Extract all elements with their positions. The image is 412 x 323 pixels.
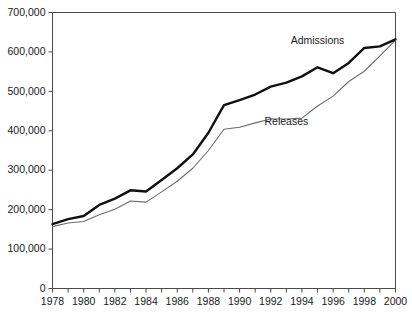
line-chart: 0100,000200,000300,000400,000500,000600,… (0, 0, 412, 323)
x-tick-label: 1996 (321, 295, 345, 307)
x-tick-label: 1986 (166, 295, 190, 307)
series-label-admissions: Admissions (291, 34, 345, 46)
axis-frame (53, 13, 396, 289)
series-line-releases (53, 40, 396, 227)
y-tick-label: 700,000 (8, 6, 46, 18)
x-tick-label: 2000 (384, 295, 408, 307)
series-annotations: AdmissionsReleases (264, 34, 344, 127)
y-tick-label: 100,000 (8, 242, 46, 254)
x-tick-label: 1990 (228, 295, 252, 307)
y-tick-label: 500,000 (8, 85, 46, 97)
series-label-releases: Releases (264, 115, 308, 127)
y-tick-label: 400,000 (8, 124, 46, 136)
x-tick-label: 1978 (41, 295, 65, 307)
y-axis-labels: 0100,000200,000300,000400,000500,000600,… (8, 6, 46, 294)
y-axis-ticks (49, 13, 53, 289)
x-tick-label: 1982 (103, 295, 127, 307)
x-tick-label: 1998 (353, 295, 377, 307)
x-tick-label: 1988 (197, 295, 221, 307)
x-axis-labels: 1978198019821984198619881990199219941996… (41, 295, 408, 307)
x-tick-label: 1992 (259, 295, 283, 307)
x-axis-ticks (53, 289, 396, 293)
x-tick-label: 1994 (290, 295, 314, 307)
x-tick-label: 1980 (72, 295, 96, 307)
y-tick-label: 0 (40, 282, 46, 294)
chart-container: 0100,000200,000300,000400,000500,000600,… (0, 0, 412, 323)
series-line-admissions (53, 39, 396, 224)
x-tick-label: 1984 (134, 295, 158, 307)
y-tick-label: 300,000 (8, 163, 46, 175)
y-tick-label: 200,000 (8, 203, 46, 215)
y-tick-label: 600,000 (8, 45, 46, 57)
